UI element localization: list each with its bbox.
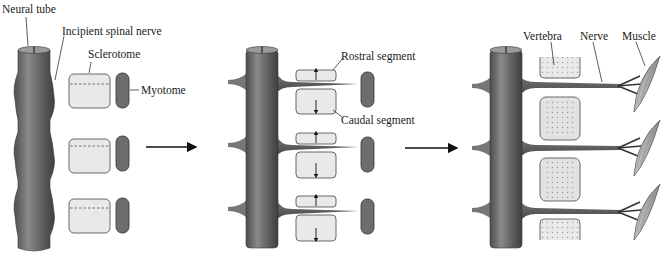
stage-2-panel: Rostral segment Caudal segment [228,47,416,249]
stage-3-panel: Vertebra Nerve Muscle [472,30,660,248]
label-incipient-spinal-nerve: Incipient spinal nerve [62,25,162,38]
neural-tube-shape [246,50,278,248]
label-rostral-segment: Rostral segment [341,50,416,63]
label-sclerotome: Sclerotome [88,48,140,60]
sclerotome-blocks [69,74,110,233]
label-neural-tube: Neural tube [2,3,56,15]
label-caudal-segment: Caudal segment [341,114,416,127]
label-nerve: Nerve [580,30,608,42]
label-vertebra: Vertebra [523,30,562,42]
neural-tube-shape [14,50,55,251]
spinal-development-diagram: Neural tube Incipient spinal nerve Scler… [0,0,671,266]
myotome-blocks [361,72,374,234]
label-muscle: Muscle [622,30,656,42]
label-myotome: Myotome [141,84,186,97]
stage-1-panel: Neural tube Incipient spinal nerve Scler… [2,3,186,251]
neural-tube-shape [490,50,522,248]
myotome-blocks [116,73,129,233]
segments [296,70,336,241]
